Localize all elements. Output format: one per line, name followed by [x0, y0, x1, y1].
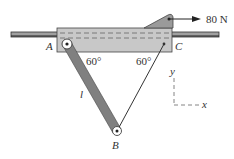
slider-block — [57, 14, 173, 52]
pin-c — [163, 43, 166, 46]
angle-a-label: 60° — [86, 55, 101, 67]
pin-b — [113, 127, 122, 136]
force-arrow — [169, 16, 201, 22]
axis-x-label: x — [201, 98, 207, 110]
coordinate-axes — [174, 78, 200, 105]
angle-c-label: 60° — [136, 55, 151, 67]
force-label: 80 N — [206, 13, 228, 25]
diagram-canvas: 80 N A C B l 60° 60° y x — [0, 0, 234, 159]
axis-y-label: y — [169, 65, 175, 77]
pin-a — [62, 39, 72, 49]
label-length: l — [80, 88, 83, 100]
label-c: C — [175, 40, 183, 52]
label-b: B — [112, 139, 119, 151]
label-a: A — [45, 40, 53, 52]
